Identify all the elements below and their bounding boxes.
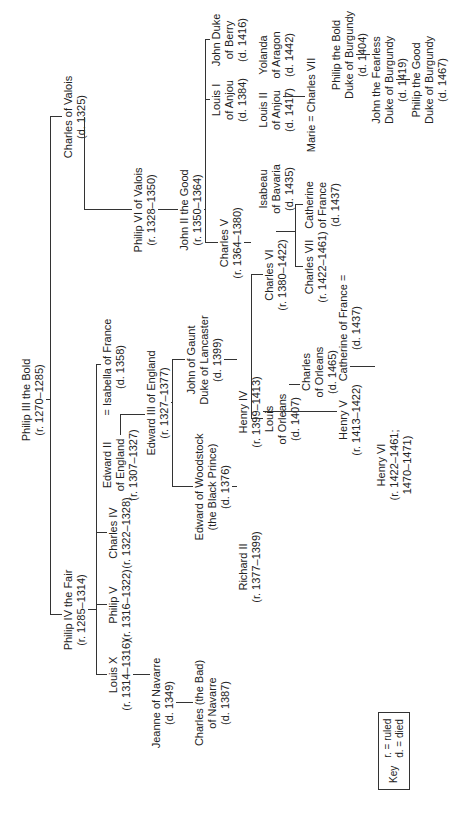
person-yolanda-of-aragon: Yolandaof Aragon(d. 1442) xyxy=(257,31,296,78)
person-charles-the-bad: Charles (the Bad)of Navarre(d. 1387) xyxy=(193,660,232,746)
key-died: d. = died xyxy=(394,719,406,758)
person-john-the-fearless-duke: John the FearlessDuke of Burgundy(d. 141… xyxy=(370,36,409,124)
person-henry-vi: Henry VI(r. 1422–1461;1470–1471) xyxy=(375,430,414,501)
person-isabeau-of-bavaria: Isabeauof Bavaria(d. 1435) xyxy=(257,164,296,214)
person-charles-vi: Charles VI(r. 1380–1422) xyxy=(263,239,289,311)
person-richard-ii: Richard II(r. 1377–1399) xyxy=(237,531,263,603)
key-ruled: r. = ruled xyxy=(382,719,394,758)
person-charles-v: Charles V(r. 1364–1380) xyxy=(218,207,244,279)
person-charles-iv: Charles IV(r. 1322–1328) xyxy=(107,497,133,569)
person-edward-ii: Edward IIof England(r. 1307–1327) xyxy=(101,429,140,501)
person-edward-iii: Edward III of England(r. 1327–1377) xyxy=(145,350,171,455)
person-charles-of-orleans: Charlesof Orleans(d. 1465) xyxy=(300,347,339,398)
person-philip-iv: Philip IV the Fair(r. 1285–1314) xyxy=(62,570,88,651)
person-philip-the-good: Philip the GoodDuke of Burgundy(d. 1467) xyxy=(410,36,449,124)
person-black-prince: Edward of Woodstock(the Black Prince)(d.… xyxy=(193,434,232,541)
person-philip-iii: Philip III the Bold(r. 1270–1285) xyxy=(20,359,46,442)
family-tree-diagram: Philip III the Bold(r. 1270–1285) Philip… xyxy=(0,0,452,815)
person-louis-x: Louis X(r. 1314–1316) xyxy=(107,639,133,711)
key-label: Key xyxy=(388,766,400,783)
person-isabella-of-france: = Isabella of France(d. 1358) xyxy=(101,319,127,416)
person-charles-vii: Charles VII(r. 1422–1461) xyxy=(303,231,329,303)
person-philip-v: Philip V(r. 1316–1322) xyxy=(107,569,133,641)
person-jeanne-of-navarre: Jeanne of Navarre(d. 1349) xyxy=(150,658,176,749)
person-philip-vi: Philip VI of Valois(r. 1328–1350) xyxy=(132,168,158,253)
person-louis-ii-of-anjou: Louis IIof Anjou(d. 1417) xyxy=(257,88,296,132)
person-henry-v: Henry V(r. 1413–1422) xyxy=(337,384,363,456)
person-john-of-gaunt: John of GauntDuke of Lancaster(d. 1399) xyxy=(185,315,224,404)
person-louis-i-of-anjou: Louis Iof Anjou(d. 1384) xyxy=(210,78,249,122)
person-john-ii: John II the Good(r. 1350–1364) xyxy=(178,169,204,250)
person-louis-of-orleans: Louisof Orleans(d. 1407) xyxy=(263,394,302,445)
person-henry-iv: Henry IV(r. 1399–1413) xyxy=(237,376,263,448)
person-john-duke-of-berry: John Dukeof Berry(d. 1416) xyxy=(210,14,249,67)
person-catherine-of-france: Catherineof France(d. 1437) xyxy=(303,181,342,229)
person-marie-charles-vii: Marie = Charles VII xyxy=(305,58,318,152)
person-philip-the-bold: Philip the BoldDuke of Burgundy(d. 1404) xyxy=(330,11,369,99)
legend-key: Key r. = ruled d. = died xyxy=(378,712,410,790)
